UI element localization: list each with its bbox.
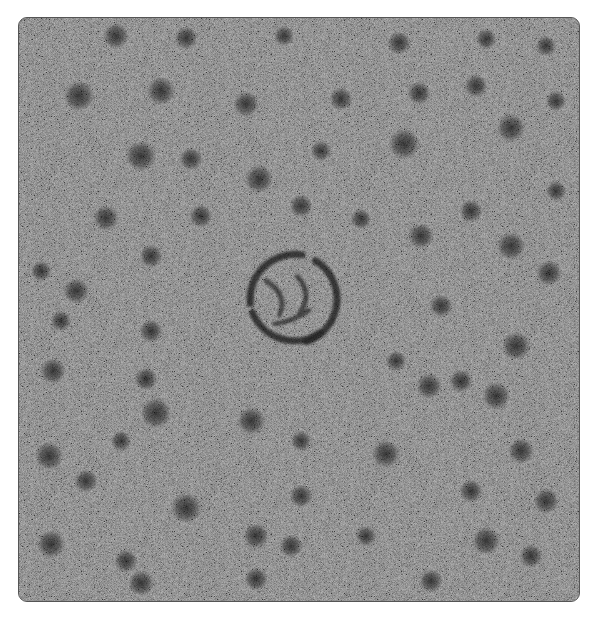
micrograph-image — [18, 17, 580, 602]
micrograph-canvas — [19, 18, 579, 601]
